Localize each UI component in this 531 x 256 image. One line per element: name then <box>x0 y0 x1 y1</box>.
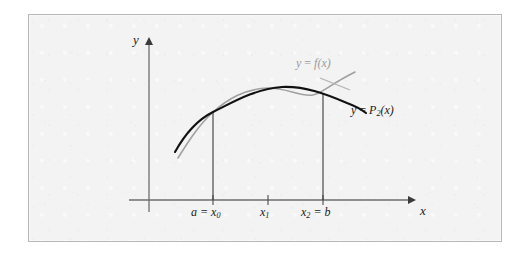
tick-label-x2: x2 = b <box>301 206 331 220</box>
curve-label-fx-equals: = <box>301 56 314 70</box>
tick-label-x0-text: a = x <box>191 205 216 219</box>
tick-label-x2-trail: = b <box>310 205 330 219</box>
curve-function-fx <box>178 72 355 158</box>
figure-root: y x y = f(x) y = P2(x) a = x0 x1 x2 = b <box>0 0 531 256</box>
leader-line-fx <box>320 78 350 90</box>
tick-label-x1-subscript: 1 <box>265 211 269 220</box>
curve-label-fx-arg: (x) <box>317 56 330 70</box>
curve-label-p2x-arg: (x) <box>381 103 394 117</box>
axis-label-x: x <box>420 204 426 217</box>
curve-polynomial-p2x <box>175 87 366 152</box>
curve-label-p2x-equals: = <box>356 103 369 117</box>
curve-label-p2x: y = P2(x) <box>351 104 394 118</box>
curve-label-fx: y = f(x) <box>296 57 331 69</box>
tick-label-x0-subscript: 0 <box>216 211 220 220</box>
tick-label-x0: a = x0 <box>191 206 221 220</box>
tick-label-x1: x1 <box>260 206 269 220</box>
axis-label-y: y <box>133 33 139 46</box>
